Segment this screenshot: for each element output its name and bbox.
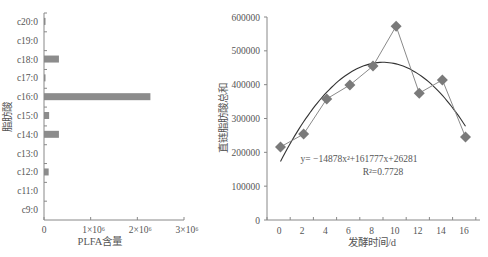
x-tick-label: 4 [323,226,328,236]
y-tick-label: 300000 [232,114,261,124]
fatty-acid-time-line-chart: 0100000200000300000400000500000600000 02… [215,0,488,257]
y-tick-label: c17:0 [17,73,38,83]
x-tick-label: 2 [300,226,305,236]
r-squared-label: R²=0.7728 [363,167,404,177]
plfa-bar-chart-svg: c20:0c19:0c18:0c17:0c16:0c15:0c14:0c13:0… [0,0,200,257]
bar-c14-0 [44,131,59,138]
diamond-markers [275,21,471,153]
x-tick-label: 0 [277,226,282,236]
y-tick-label: c13:0 [17,149,38,159]
x-tick-label: 12 [413,226,423,236]
data-series-line [281,26,466,147]
y-tick-label: c18:0 [17,55,38,65]
y-tick-label: c20:0 [17,17,38,27]
bars [44,18,150,176]
y-tick-label: c15:0 [17,111,38,121]
x-tick-label: 1×10⁶ [82,225,105,235]
x-axis-title: 发酵时间/d [348,236,397,248]
y-tick-label: c16:0 [17,92,38,102]
y-tick-label: 200000 [232,148,261,158]
diamond-marker [414,88,425,99]
x-tick-label: 6 [346,226,351,236]
bar-c15-0 [44,112,49,119]
y-tick-label: 100000 [232,182,261,192]
diamond-marker [321,93,332,104]
diamond-marker [344,80,355,91]
y-tick-label: c9:0 [22,205,39,215]
bar-c12-0 [44,168,49,175]
bar-c18-0 [44,56,59,63]
trendline-equation: y= −14878x²+161777x+26281 [301,154,418,164]
x-tick-label: 14 [436,226,446,236]
y-axis-title: 脂肪酸 [1,101,13,132]
x-tick-label: 2×10⁶ [129,225,152,235]
y-tick-label: c19:0 [17,36,38,46]
y-tick-label: 0 [255,216,260,226]
y-tick-label: 400000 [232,80,261,90]
diamond-marker [298,129,309,140]
plfa-bar-chart: c20:0c19:0c18:0c17:0c16:0c15:0c14:0c13:0… [0,0,200,257]
polynomial-trendline [281,62,466,161]
y-axis-title: 直链脂肪酸总和 [217,83,229,153]
diamond-marker [391,21,402,32]
y-axis-ticks: c20:0c19:0c18:0c17:0c16:0c15:0c14:0c13:0… [17,13,47,215]
bar-c16-0 [44,93,150,100]
x-tick-label: 8 [369,226,374,236]
y-tick-label: c11:0 [17,186,38,196]
x-tick-label: 3×10⁶ [176,225,199,235]
y-tick-label: 500000 [232,46,261,56]
x-tick-label: 16 [459,226,469,236]
line-chart-svg: 0100000200000300000400000500000600000 02… [215,0,488,257]
x-tick-label: 10 [390,226,400,236]
y-tick-label: c14:0 [17,130,38,140]
diamond-marker [437,74,448,85]
x-tick-label: 0 [42,225,47,235]
y-tick-label: 600000 [232,13,261,23]
diamond-marker [275,141,286,152]
y-tick-label: c12:0 [17,167,38,177]
x-axis-title: PLFA含量 [78,235,124,247]
y-axis-ticks: 0100000200000300000400000500000600000 [232,13,268,226]
diamond-marker [460,132,471,143]
